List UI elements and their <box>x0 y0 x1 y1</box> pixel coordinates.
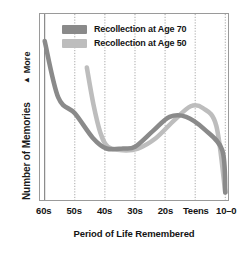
y-axis-title: Number of Memories <box>21 102 32 200</box>
x-tick-20s: 20s <box>158 205 173 216</box>
legend-swatch-age50 <box>62 39 87 48</box>
legend-item-age50: Recollection at Age 50 <box>62 37 186 49</box>
plot-area: Recollection at Age 70 Recollection at A… <box>39 13 229 201</box>
x-tick-10–0: 10–0 <box>216 205 236 216</box>
legend-swatch-age70 <box>62 25 87 34</box>
legend: Recollection at Age 70 Recollection at A… <box>62 23 186 49</box>
legend-item-age70: Recollection at Age 70 <box>62 23 186 35</box>
legend-label-age50: Recollection at Age 50 <box>94 38 186 48</box>
up-arrow-icon: ▲ <box>22 76 31 84</box>
legend-label-age70: Recollection at Age 70 <box>94 24 186 34</box>
x-tick-40s: 40s <box>97 205 112 216</box>
x-tick-50s: 50s <box>67 205 82 216</box>
memory-recollection-chart: ▲ More Number of Memories Recollection a… <box>0 0 237 255</box>
y-axis-more-marker: ▲ More <box>22 51 32 84</box>
x-tick-Teens: Teens <box>183 205 209 216</box>
x-tick-30s: 30s <box>127 205 142 216</box>
x-axis-tick-labels: 60s50s40s30s20sTeens10–0 <box>39 205 229 219</box>
x-axis-title: Period of Life Remembered <box>39 228 229 239</box>
x-tick-60s: 60s <box>36 205 51 216</box>
y-axis: ▲ More Number of Memories <box>0 12 32 204</box>
y-axis-more-label: More <box>22 51 32 73</box>
